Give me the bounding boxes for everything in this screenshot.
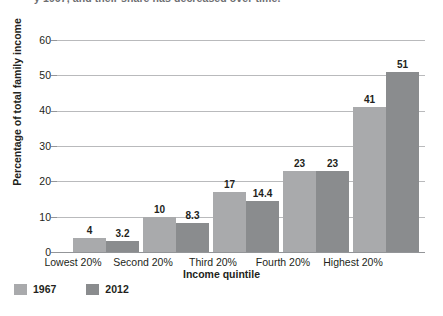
- bar-1967[interactable]: [283, 171, 316, 252]
- bar-value-2012: 8.3: [176, 211, 209, 221]
- bar-chart: Percentage of total family income 60 50 …: [0, 0, 443, 316]
- legend: 1967 2012: [14, 283, 159, 295]
- bar-value-1967: 17: [213, 180, 246, 190]
- bar-1967[interactable]: [73, 238, 106, 252]
- bar-group: 10 8.3: [143, 40, 211, 252]
- bar-value-2012: 51: [386, 60, 419, 70]
- y-tick-label: 50: [25, 70, 51, 81]
- bar-value-2012: 14.4: [246, 189, 279, 199]
- bar-2012[interactable]: [246, 201, 279, 252]
- bar-value-1967: 4: [73, 226, 106, 236]
- legend-item-1967[interactable]: 1967: [14, 283, 56, 295]
- x-axis-title: Income quintile: [0, 268, 443, 280]
- y-axis-title: Percentage of total family income: [11, 17, 23, 187]
- x-tick-label-second: Second 20%: [109, 256, 177, 268]
- y-axis-tick-labels: 60 50 40 30 20 10 0: [25, 40, 51, 252]
- legend-item-2012[interactable]: 2012: [86, 283, 128, 295]
- legend-label: 1967: [33, 283, 56, 295]
- bar-group: 23 23: [283, 40, 351, 252]
- bar-value-1967: 23: [283, 159, 316, 169]
- bar-group: 41 51: [353, 40, 421, 252]
- legend-label: 2012: [105, 283, 128, 295]
- x-tick-label-lowest: Lowest 20%: [39, 256, 107, 268]
- bar-1967[interactable]: [353, 107, 386, 252]
- bar-2012[interactable]: [106, 241, 139, 252]
- bar-2012[interactable]: [176, 223, 209, 252]
- y-tick-label: 60: [25, 35, 51, 46]
- bar-group: 17 14.4: [213, 40, 281, 252]
- legend-swatch-icon: [86, 284, 99, 295]
- bar-value-1967: 41: [353, 95, 386, 105]
- bar-2012[interactable]: [316, 171, 349, 252]
- x-tick-label-third: Third 20%: [179, 256, 247, 268]
- bar-2012[interactable]: [386, 72, 419, 252]
- y-tick-label: 20: [25, 176, 51, 187]
- y-tick-label: 40: [25, 105, 51, 116]
- legend-swatch-icon: [14, 284, 27, 295]
- bar-1967[interactable]: [213, 192, 246, 252]
- x-tick-label-highest: Highest 20%: [319, 256, 387, 268]
- plot-area: 4 3.2 10 8.3 17 14.4 23 23 41: [57, 40, 425, 252]
- bar-group: 4 3.2: [73, 40, 141, 252]
- bar-1967[interactable]: [143, 217, 176, 252]
- axis-baseline: [57, 252, 425, 253]
- y-tick-label: 30: [25, 141, 51, 152]
- y-tick-label: 10: [25, 212, 51, 223]
- bar-value-1967: 10: [143, 205, 176, 215]
- bar-value-2012: 3.2: [106, 229, 139, 239]
- x-tick-label-fourth: Fourth 20%: [249, 256, 317, 268]
- bar-value-2012: 23: [316, 159, 349, 169]
